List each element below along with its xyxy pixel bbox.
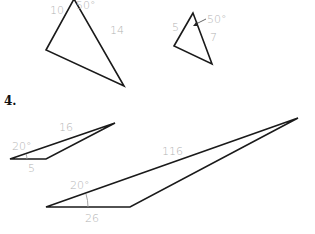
arrow-icon: [196, 19, 206, 24]
triangle-a-side-right-label: 14: [110, 24, 124, 37]
triangle-a: 10 50° 14: [46, 0, 124, 86]
triangle-c-side-base-label: 5: [28, 162, 35, 175]
problem-number: 4.: [4, 94, 17, 108]
triangle-d-side-long-label: 116: [162, 145, 183, 158]
triangle-c-side-long-label: 16: [59, 121, 73, 134]
triangle-c: 20° 16 5: [10, 121, 115, 175]
triangle-d-shape: [46, 118, 298, 207]
figure-canvas: 10 50° 14 5 50° 7 4. 20° 16 5 20° 116 26: [0, 0, 315, 234]
triangle-d-angle-label: 20°: [70, 179, 90, 192]
triangle-b-side-right-label: 7: [210, 31, 217, 44]
triangle-d-angle-arc: [86, 194, 88, 207]
triangle-a-angle-label: 50°: [76, 0, 96, 12]
triangle-a-side-left-label: 10: [50, 4, 64, 17]
triangle-c-angle-label: 20°: [12, 140, 32, 153]
triangle-b: 5 50° 7: [172, 13, 227, 64]
triangle-d-side-base-label: 26: [85, 212, 99, 225]
triangle-b-side-left-label: 5: [172, 21, 179, 34]
triangle-b-angle-label: 50°: [207, 13, 227, 26]
